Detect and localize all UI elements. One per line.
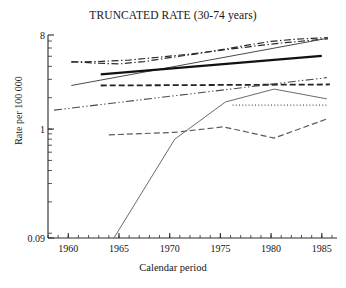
series-6-dashdotdot-rising [54,78,327,111]
chart-container: TRUNCATED RATE (30-74 years) Rate per 10… [0,0,346,288]
series-9-dashed-low [109,119,327,138]
series-7-solid-peak [114,89,327,238]
svg-text:1960: 1960 [58,243,78,254]
svg-text:1: 1 [40,124,45,135]
svg-text:0.09: 0.09 [28,233,46,244]
series-5-dashed-flat [101,84,330,85]
chart-series-group [54,38,330,238]
svg-text:8: 8 [40,30,45,41]
svg-text:1985: 1985 [312,243,332,254]
svg-text:1980: 1980 [261,243,281,254]
svg-text:1975: 1975 [210,243,230,254]
svg-text:1965: 1965 [109,243,129,254]
chart-axes [48,35,337,238]
chart-ticks [48,35,332,238]
chart-tick-labels: 810.09196019651970197519801985 [28,30,332,255]
svg-text:1970: 1970 [160,243,180,254]
chart-plot-area: 810.09196019651970197519801985 [0,0,346,288]
series-1-dashdot-upper [71,38,328,64]
series-4-solid-thick [101,56,322,75]
series-3-solid-thin-rising [71,38,328,85]
